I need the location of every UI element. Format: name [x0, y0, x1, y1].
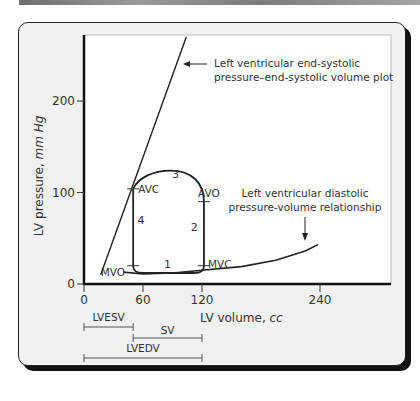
x-tick-label: 0: [80, 293, 88, 307]
bracket-lvesv-label: LVESV: [92, 311, 125, 323]
mvo-label: MVO: [101, 266, 125, 278]
edpvr-annotation-line2: pressure-volume relationship: [229, 201, 382, 213]
mvc-label: MVC: [208, 258, 232, 270]
y-axis-label: LV pressure, mm Hg: [32, 115, 46, 236]
x-tick-label: 120: [191, 293, 214, 307]
espvr-annotation-line1: Left ventricular end-systolic: [214, 57, 360, 69]
phase-label: 4: [138, 214, 145, 227]
x-axis-label: LV volume, cc: [200, 311, 283, 325]
x-tick-label: 240: [309, 293, 332, 307]
y-tick-label: 0: [67, 277, 75, 291]
avc-label: AVC: [138, 183, 159, 195]
x-tick-label: 60: [135, 293, 150, 307]
phase-label: 2: [191, 221, 198, 234]
bracket-lvedv-label: LVEDV: [126, 342, 160, 354]
phase-label: 3: [172, 168, 179, 181]
avo-label: AVO: [198, 187, 220, 199]
y-tick-label: 200: [52, 94, 75, 108]
espvr-annotation-line2: pressure–end-systolic volume plot: [214, 71, 393, 83]
edpvr-annotation-line1: Left ventricular diastolic: [242, 187, 369, 199]
phase-label: 1: [164, 258, 171, 271]
y-tick-label: 100: [52, 186, 75, 200]
bracket-sv-label: SV: [161, 324, 176, 336]
pv-loop-diagram: 0100200060120240 AVCAVOMVCMVO1234LVESVSV…: [0, 0, 420, 401]
